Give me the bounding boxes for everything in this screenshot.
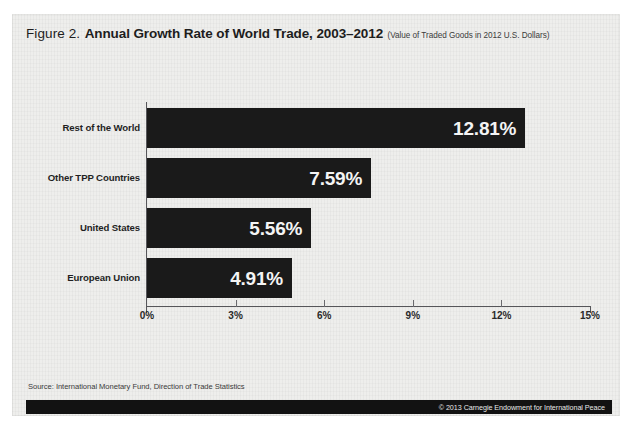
category-label-united-states: United States <box>20 222 140 233</box>
footer-bar: © 2013 Carnegie Endowment for Internatio… <box>26 400 612 414</box>
bar-european-union: 4.91% <box>147 258 292 298</box>
x-axis-tick-4 <box>501 300 502 307</box>
page-title: Annual Growth Rate of World Trade, 2003–… <box>85 26 383 41</box>
category-label-other-tpp-countries: Other TPP Countries <box>20 172 140 183</box>
footer-credit: © 2013 Carnegie Endowment for Internatio… <box>439 403 605 412</box>
bar-united-states: 5.56% <box>147 208 311 248</box>
x-tick-label-3: 9% <box>406 310 420 321</box>
bar-rest-of-the-world: 12.81% <box>147 108 525 148</box>
x-tick-label-0: 0% <box>140 310 154 321</box>
x-axis-tick-labels: 0% 3% 6% 9% 12% 15% <box>147 310 590 326</box>
category-axis-labels: Rest of the World Other TPP Countries Un… <box>20 106 140 302</box>
bar-value-european-union: 4.91% <box>230 269 283 288</box>
bar-value-rest-of-the-world: 12.81% <box>453 119 516 138</box>
x-axis-tick-2 <box>324 300 325 307</box>
x-tick-label-1: 3% <box>228 310 242 321</box>
x-tick-label-5: 15% <box>580 310 600 321</box>
plot-area: 12.81% 7.59% 5.56% 4.91% <box>147 106 590 302</box>
x-axis-tick-3 <box>413 300 414 307</box>
category-label-european-union: European Union <box>20 272 140 283</box>
bar-other-tpp-countries: 7.59% <box>147 158 371 198</box>
bar-value-other-tpp-countries: 7.59% <box>309 169 362 188</box>
x-axis-line <box>146 306 591 307</box>
x-axis-tick-1 <box>236 300 237 307</box>
x-tick-label-2: 6% <box>317 310 331 321</box>
figure-number: Figure 2. <box>26 26 80 41</box>
category-label-rest-of-the-world: Rest of the World <box>20 122 140 133</box>
figure-title-row: Figure 2. Annual Growth Rate of World Tr… <box>26 24 601 42</box>
x-tick-label-4: 12% <box>491 310 511 321</box>
bar-value-united-states: 5.56% <box>249 219 302 238</box>
bar-series: 12.81% 7.59% 5.56% 4.91% <box>147 106 590 302</box>
figure-subtitle: (Value of Traded Goods in 2012 U.S. Doll… <box>388 31 550 40</box>
source-note: Source: International Monetary Fund, Dir… <box>28 382 245 391</box>
figure-container: Figure 2. Annual Growth Rate of World Tr… <box>0 0 632 429</box>
